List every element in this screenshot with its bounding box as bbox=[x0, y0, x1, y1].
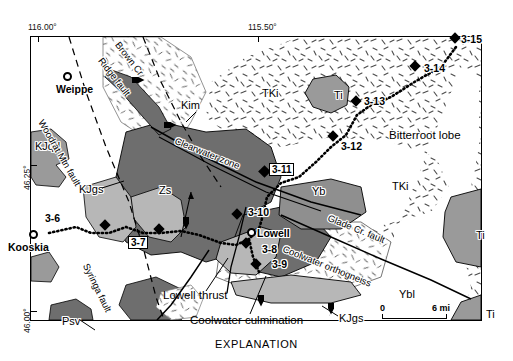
graticule-tick-lon-right bbox=[258, 36, 259, 42]
town-label-lowell: Lowell bbox=[257, 227, 290, 239]
sample-label-3-11: 3-11 bbox=[269, 163, 294, 176]
explanation-caption: EXPLANATION bbox=[0, 338, 513, 350]
longitude-label-right: 115.50° bbox=[248, 22, 277, 32]
unit-label-tki-north: TKi bbox=[262, 88, 279, 99]
graticule-tick-lat-top bbox=[30, 165, 37, 166]
scale-bar-line bbox=[382, 314, 447, 319]
unit-label-zs: Zs bbox=[159, 185, 171, 196]
longitude-label-left: 116.00° bbox=[28, 22, 57, 32]
town-marker-kooskia bbox=[29, 230, 38, 239]
scale-bar-max-label: 6 mi bbox=[432, 303, 450, 313]
graticule-tick-lat-bottom bbox=[30, 311, 37, 312]
town-label-weippe: Weippe bbox=[56, 83, 93, 95]
figure-root: 116.00° 115.50° 46.25° 46.00° KJqd KJgs … bbox=[0, 0, 513, 361]
sample-label-3-14: 3-14 bbox=[424, 62, 445, 74]
sample-label-3-13: 3-13 bbox=[364, 95, 385, 107]
unit-label-yb: Yb bbox=[312, 186, 325, 197]
town-marker-weippe bbox=[63, 72, 72, 81]
sample-label-3-7: 3-7 bbox=[128, 236, 148, 249]
unit-label-kjgs-west: KJgs bbox=[79, 184, 103, 195]
sample-label-3-6: 3-6 bbox=[45, 212, 60, 224]
sample-label-3-10: 3-10 bbox=[248, 206, 269, 218]
annotation-lowell-thrust: Lowell thrust bbox=[163, 290, 228, 302]
unit-label-ybl: Ybl bbox=[399, 289, 415, 300]
unit-label-psv: Psv bbox=[62, 316, 80, 327]
unit-label-ti-southeast: Ti bbox=[486, 309, 495, 320]
sample-label-3-12: 3-12 bbox=[341, 140, 362, 152]
sample-label-3-8: 3-8 bbox=[262, 243, 277, 255]
annotation-coolwater-culmination: Coolwater culmination bbox=[190, 315, 303, 327]
annotation-bitterroot-lobe: Bitterroot lobe bbox=[389, 130, 461, 142]
unit-label-tki-east: TKi bbox=[392, 181, 409, 192]
town-label-kooskia: Kooskia bbox=[8, 241, 49, 253]
latitude-label-top: 46.25° bbox=[22, 165, 32, 190]
scale-bar-zero-label: 0 bbox=[380, 303, 385, 313]
unit-label-ti-east: Ti bbox=[476, 230, 485, 241]
unit-label-kjgs-south: KJgs bbox=[339, 313, 363, 324]
unit-label-kim: Kim bbox=[181, 100, 200, 111]
sample-label-3-9: 3-9 bbox=[272, 258, 287, 270]
scale-bar: 0 6 mi bbox=[382, 306, 452, 326]
unit-label-ti-north: Ti bbox=[334, 90, 343, 101]
town-marker-lowell bbox=[247, 228, 256, 237]
graticule-tick-lon-left bbox=[38, 36, 39, 42]
sample-label-3-15: 3-15 bbox=[461, 33, 482, 45]
